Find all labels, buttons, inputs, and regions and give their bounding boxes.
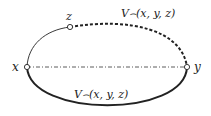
- node-z-label: z: [65, 10, 72, 23]
- node-x-label: x: [12, 60, 19, 74]
- node-z: [67, 24, 72, 29]
- lower-edge-label: V⌢(x, y, z): [74, 88, 128, 101]
- edge-x-z-thin: [27, 27, 70, 67]
- upper-edge-label: V⌢(x, y, z): [121, 7, 175, 20]
- diagram-canvas: x y z V⌢(x, y, z) V⌢(x, y, z): [0, 0, 211, 116]
- edge-z-y-dashed: [70, 24, 187, 67]
- node-y-label: y: [193, 60, 201, 74]
- node-y: [184, 64, 189, 69]
- node-x: [24, 64, 29, 69]
